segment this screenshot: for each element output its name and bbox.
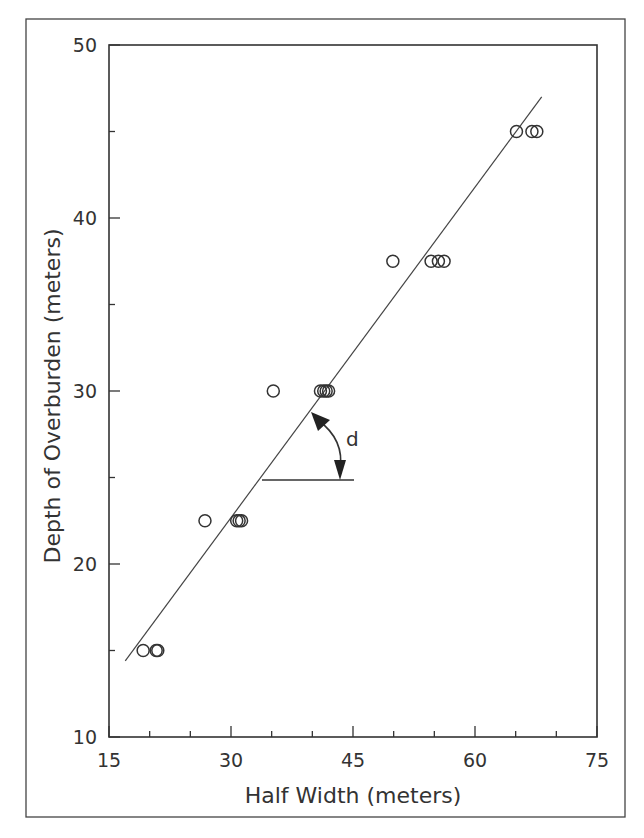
regression-line [125,97,541,661]
data-point [137,645,149,657]
y-axis-title: Depth of Overburden (meters) [40,229,65,564]
y-axis-tick-labels: 1020304050 [73,34,97,748]
x-tick-label: 30 [219,749,243,771]
y-tick-label: 10 [73,726,97,748]
x-tick-label: 60 [463,749,487,771]
x-tick-label: 45 [341,749,365,771]
x-tick-label: 75 [585,749,609,771]
x-axis-tick-labels: 1530456075 [97,749,609,771]
y-tick-label: 40 [73,207,97,229]
data-point [267,385,279,397]
y-axis-ticks [109,45,120,737]
y-tick-label: 20 [73,553,97,575]
data-point [425,255,437,267]
plot-area [109,45,597,737]
angle-label: d [346,427,359,451]
outer-frame [26,19,625,817]
angle-annotation: d [262,412,359,480]
data-points [137,126,543,657]
data-point [387,255,399,267]
data-point [199,515,211,527]
x-tick-label: 15 [97,749,121,771]
y-tick-label: 50 [73,34,97,56]
scatter-chart: 1530456075 1020304050 d Half Width (mete… [0,0,644,838]
x-axis-ticks [109,726,597,737]
fit-line [125,97,541,661]
x-axis-title: Half Width (meters) [245,783,462,808]
y-tick-label: 30 [73,380,97,402]
arrowhead-down-icon [334,460,346,480]
